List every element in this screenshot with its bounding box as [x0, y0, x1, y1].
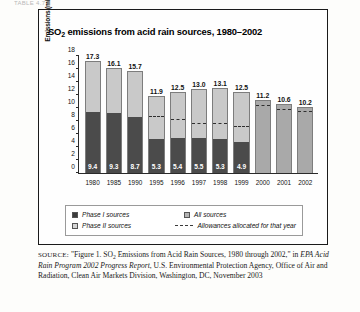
bar-group: 17.39.4198016.19.3198515.78.7199011.95.3…	[79, 56, 318, 173]
allowance-line	[234, 126, 248, 127]
x-axis-tick-label: 2000	[256, 179, 270, 186]
dark-square-swatch-icon	[72, 212, 78, 218]
bar-1998[interactable]: 5.3	[212, 88, 228, 173]
y-axis-tick-mark	[76, 133, 80, 134]
bar-segment-phase-ii	[107, 69, 121, 113]
bar-segment-phase-i: 5.5	[192, 138, 206, 173]
allowance-line	[298, 111, 312, 112]
bar-1996[interactable]: 5.4	[170, 92, 186, 173]
x-axis-tick-label: 2001	[277, 179, 291, 186]
bar-total-value-label: 10.2	[289, 99, 322, 106]
y-axis-tick-mark	[76, 159, 80, 160]
bar-inside-value-label: 5.3	[149, 163, 163, 170]
legend-label-allowances: Allowances allocated for that year	[197, 222, 296, 229]
allowance-line	[277, 109, 291, 110]
bar-segment-phase-ii	[86, 62, 100, 113]
bar-segment-phase-i: 5.3	[149, 139, 163, 173]
x-axis-tick-label: 1997	[192, 179, 206, 186]
figure-title-subscript: 2	[61, 31, 65, 38]
legend-label-all-sources: All sources	[194, 211, 226, 218]
x-axis-tick-label: 2002	[298, 179, 312, 186]
bar-segment-all-sources	[277, 105, 291, 173]
y-axis-tick-mark	[76, 68, 80, 69]
bar-segment-phase-i: 4.9	[234, 142, 248, 173]
bar-2002[interactable]	[297, 107, 313, 173]
allowance-line	[171, 119, 185, 120]
y-axis-tick-label: 4	[55, 137, 75, 144]
bar-segment-phase-i: 8.7	[128, 117, 142, 173]
y-axis-tick-label: 18	[55, 46, 75, 53]
bar-column: 15.78.71990	[125, 56, 146, 173]
bar-1997[interactable]: 5.5	[191, 89, 207, 174]
bar-column: 13.15.31998	[210, 56, 231, 173]
bar-segment-phase-i: 9.4	[86, 112, 100, 173]
bar-column: 11.22000	[252, 56, 273, 173]
bar-segment-phase-ii	[149, 97, 163, 139]
bar-2000[interactable]	[255, 100, 271, 173]
bar-1990[interactable]: 8.7	[127, 71, 143, 173]
source-note: SOURCE: "Figure 1. SO2 Emissions from Ac…	[38, 250, 330, 282]
x-axis-tick-label: 1980	[86, 179, 100, 186]
allowance-line	[192, 123, 206, 124]
source-quoted-a: "Figure 1. SO	[71, 250, 113, 259]
legend-item-all-sources: All sources	[184, 211, 226, 218]
bar-1985[interactable]: 9.3	[106, 68, 122, 173]
bar-inside-value-label: 9.4	[86, 163, 100, 170]
bar-inside-value-label: 5.4	[171, 163, 185, 170]
y-axis-tick-mark	[76, 120, 80, 121]
dashed-line-swatch-icon	[175, 225, 193, 226]
bar-column: 12.54.91999	[231, 56, 252, 173]
bar-segment-phase-ii	[234, 93, 248, 142]
y-axis-tick-label: 2	[55, 150, 75, 157]
bar-1995[interactable]: 5.3	[148, 96, 164, 173]
x-axis-tick-label: 1999	[234, 179, 248, 186]
bar-segment-phase-i: 5.3	[213, 139, 227, 173]
y-axis-tick-label: 10	[55, 98, 75, 105]
allowance-line	[149, 116, 163, 117]
y-axis-label: Emissions (million tons)	[44, 0, 51, 58]
bar-column: 16.19.31985	[103, 56, 124, 173]
bar-1999[interactable]: 4.9	[233, 92, 249, 173]
page-header-strip: TABLE 4.7	[14, 0, 134, 9]
legend-label-phase-i: Phase I sources	[82, 211, 129, 218]
bar-inside-value-label: 5.3	[213, 163, 227, 170]
y-axis-tick-mark	[76, 107, 80, 108]
x-axis-tick-label: 1985	[107, 179, 121, 186]
bar-2001[interactable]	[276, 104, 292, 173]
bar-inside-value-label: 9.3	[107, 163, 121, 170]
bar-column: 10.62001	[273, 56, 294, 173]
bar-inside-value-label: 4.9	[234, 163, 248, 170]
bar-column: 11.95.31995	[146, 56, 167, 173]
legend-item-phase-i: Phase I sources	[72, 211, 184, 218]
bar-segment-phase-ii	[213, 89, 227, 139]
bar-inside-value-label: 8.7	[128, 163, 142, 170]
legend-row-2: Phase II sources Allowances allocated fo…	[72, 220, 296, 231]
x-axis-tick-label: 1990	[128, 179, 142, 186]
figure-frame: SO2 emissions from acid rain sources, 19…	[38, 9, 328, 245]
bar-segment-phase-ii	[171, 93, 185, 139]
source-quoted-subscript: 2	[113, 254, 116, 260]
figure-title-rest: emissions from acid rain sources, 1980–2…	[65, 26, 262, 37]
chart-plot-area: Emissions (million tons) 17.39.4198016.1…	[48, 44, 320, 194]
y-axis-tick-mark	[76, 172, 80, 173]
y-axis-tick-label: 12	[55, 85, 75, 92]
y-axis-tick-label: 14	[55, 72, 75, 79]
figure-title: SO2 emissions from acid rain sources, 19…	[48, 26, 262, 37]
y-axis-tick-mark	[76, 146, 80, 147]
bar-column: 10.22002	[295, 56, 316, 173]
y-axis-tick-mark	[76, 55, 80, 56]
y-axis-tick-mark	[76, 94, 80, 95]
bar-column: 12.55.41996	[167, 56, 188, 173]
allowance-line	[256, 105, 270, 106]
y-axis-tick-label: 8	[55, 111, 75, 118]
x-axis-tick-label: 1995	[149, 179, 163, 186]
figure-page: TABLE 4.7 SO2 emissions from acid rain s…	[0, 0, 360, 312]
legend-item-phase-ii: Phase II sources	[72, 222, 175, 229]
bar-inside-value-label: 5.5	[192, 163, 206, 170]
legend-item-allowances: Allowances allocated for that year	[175, 222, 296, 229]
y-axis-tick-label: 6	[55, 124, 75, 131]
bar-segment-all-sources	[298, 108, 312, 173]
bar-segment-phase-i: 9.3	[107, 113, 121, 173]
bar-1980[interactable]: 9.4	[85, 61, 101, 173]
legend-row-1: Phase I sources All sources	[72, 209, 296, 220]
